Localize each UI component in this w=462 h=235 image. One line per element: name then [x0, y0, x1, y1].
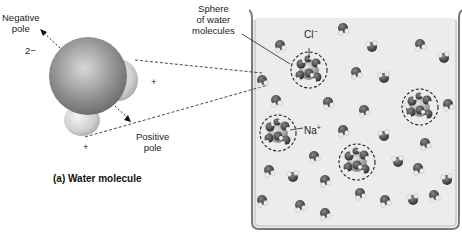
positive-pole-label-line1: Positive: [136, 131, 169, 142]
sodium-symbol: Na: [304, 125, 317, 136]
sodium-charge: +: [317, 124, 321, 131]
sphere-of-water-label: Sphere of water molecules: [192, 3, 235, 36]
water-molecule-model: [49, 37, 138, 136]
sphere-label-line3: molecules: [192, 25, 235, 36]
hydrogen-charge-right: +: [151, 76, 157, 87]
chloride-charge: −: [313, 28, 317, 35]
negative-pole-label: Negative pole: [2, 12, 40, 34]
negative-pole-label-line2: pole: [2, 23, 40, 34]
hydrogen-charge-bottom: +: [83, 141, 89, 152]
water-ion-diagram: Negative pole 2− + + Positive pole (a) W…: [0, 0, 462, 235]
positive-pole-label: Positive pole: [136, 131, 169, 153]
sphere-label-line2: of water: [192, 14, 235, 25]
positive-pole-label-line2: pole: [136, 142, 169, 153]
chloride-ion-label: Cl−: [304, 26, 318, 40]
sodium-ion-label: Na+: [304, 122, 321, 136]
oxygen-charge-label: 2−: [25, 45, 36, 56]
sphere-label-line1: Sphere: [192, 3, 235, 14]
negative-pole-label-line1: Negative: [2, 12, 40, 23]
positive-pole-arrowhead: [124, 115, 131, 122]
negative-pole-arrowhead: [40, 29, 47, 36]
panel-a-caption: (a) Water molecule: [53, 173, 142, 184]
